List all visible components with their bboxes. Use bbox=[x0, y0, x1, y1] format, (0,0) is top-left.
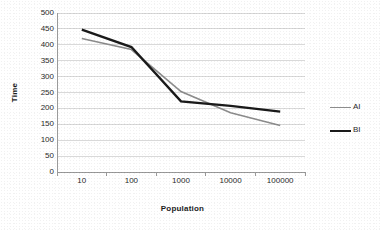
legend-item: BI bbox=[330, 121, 380, 144]
legend-item-label: BI bbox=[353, 125, 361, 134]
series-lines bbox=[82, 30, 280, 126]
gridlines bbox=[57, 13, 305, 172]
x-axis-tick-marks bbox=[57, 172, 305, 176]
legend-item: AI bbox=[330, 98, 380, 121]
line-chart: Time Population 050100150200250300350400… bbox=[0, 0, 381, 231]
legend-item-label: AI bbox=[353, 102, 361, 111]
legend-line-swatch bbox=[330, 130, 351, 132]
legend-line-swatch bbox=[330, 107, 351, 108]
chart-legend: AIBI bbox=[330, 98, 380, 144]
plot-area bbox=[0, 0, 381, 231]
